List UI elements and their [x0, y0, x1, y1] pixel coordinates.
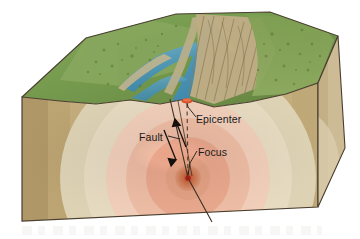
earthquake-diagram-figure: Epicenter Fault Focus [0, 0, 360, 239]
scan-artifact [22, 226, 322, 235]
focus-marker [185, 175, 190, 180]
label-fault: Fault [139, 131, 163, 143]
label-focus: Focus [198, 146, 227, 158]
diagram-canvas [0, 0, 360, 239]
label-epicenter: Epicenter [196, 113, 241, 125]
